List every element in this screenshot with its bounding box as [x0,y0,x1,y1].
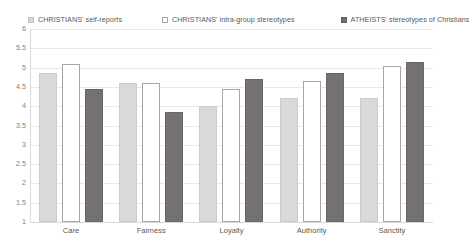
bar[interactable] [165,112,183,222]
bar[interactable] [62,64,80,222]
legend-label: CHRISTIANS' self-reports [38,16,122,24]
bar-group [272,29,352,222]
y-tick-label: 2 [0,179,26,187]
x-tick-label: Sanctity [352,226,432,236]
bars-layer [31,29,432,222]
bar-group [111,29,191,222]
legend-item-1[interactable]: CHRISTIANS' self-reports [28,16,122,24]
y-tick-label: 6 [0,25,26,33]
y-tick-label: 4 [0,102,26,110]
bar[interactable] [303,81,321,222]
legend-label: ATHEISTS' stereotypes of Christians [351,16,469,24]
bar[interactable] [199,106,217,222]
y-tick-label: 3 [0,141,26,149]
x-tick-label: Authority [272,226,352,236]
x-tick-label: Loyalty [191,226,271,236]
bar[interactable] [222,89,240,222]
bar[interactable] [245,79,263,222]
y-tick-label: 2.5 [0,160,26,168]
bar-group [31,29,111,222]
legend-swatch-icon [28,17,34,23]
legend-item-2[interactable]: CHRISTIANS' intra-group stereotypes [162,16,295,24]
legend-swatch-icon [341,17,347,23]
bar[interactable] [383,66,401,222]
bar[interactable] [142,83,160,222]
chart-legend: CHRISTIANS' self-reportsCHRISTIANS' intr… [28,13,428,27]
y-axis: 11.522.533.544.555.56 [0,29,26,222]
bar[interactable] [39,73,57,222]
y-tick-label: 5 [0,64,26,72]
x-tick-label: Care [31,226,111,236]
legend-item-3[interactable]: ATHEISTS' stereotypes of Christians [341,16,469,24]
y-tick-label: 1.5 [0,199,26,207]
x-axis: CareFairnessLoyaltyAuthoritySanctity [31,226,432,240]
y-tick-label: 1 [0,218,26,226]
y-tick-label: 5.5 [0,44,26,52]
x-tick-label: Fairness [111,226,191,236]
bar-group [352,29,432,222]
bar[interactable] [360,98,378,222]
bar[interactable] [326,73,344,222]
y-tick-label: 3.5 [0,122,26,130]
bar[interactable] [280,98,298,222]
legend-swatch-icon [162,17,168,23]
legend-label: CHRISTIANS' intra-group stereotypes [172,16,295,24]
bar[interactable] [406,62,424,222]
bar[interactable] [85,89,103,222]
bar[interactable] [119,83,137,222]
bar-group [191,29,271,222]
y-tick-label: 4.5 [0,83,26,91]
